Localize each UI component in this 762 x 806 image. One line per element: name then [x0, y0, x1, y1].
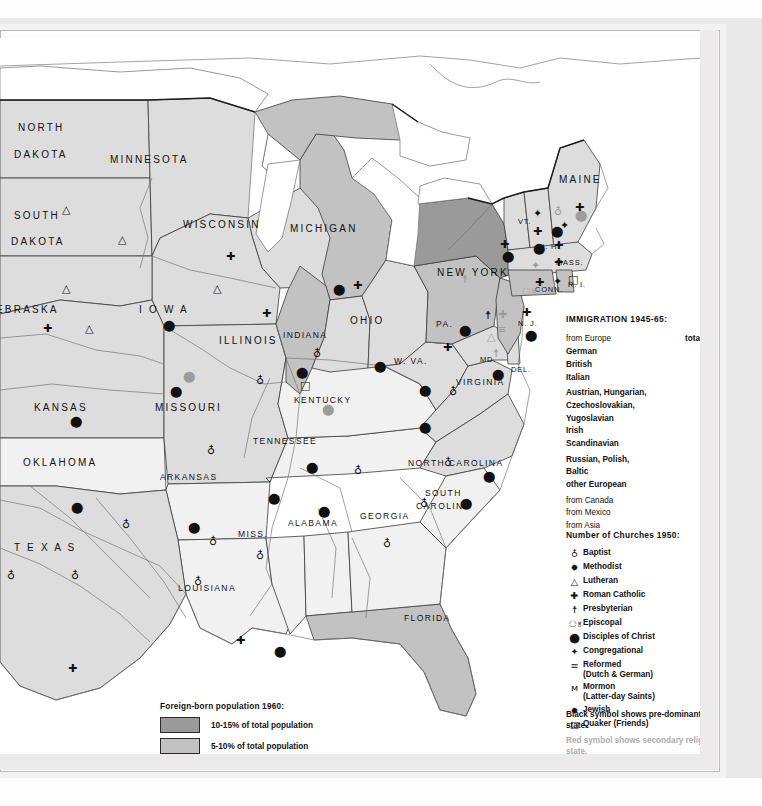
immigration-value: 397,541: [666, 359, 700, 372]
church-symbol-icon: ☨: [566, 603, 583, 617]
church-denomination: Roman Catholic: [583, 589, 700, 603]
religion-symbol-primary: ⬤: [306, 462, 318, 473]
religion-symbol-secondary: ⬤: [183, 371, 195, 382]
religion-symbol-primary: △: [118, 234, 126, 245]
immigration-table: from Europetotal 2,332,676German794,192B…: [566, 333, 700, 533]
symbol-color-note: Black symbol shows pre-dominant religion…: [566, 710, 700, 754]
state-label: T E X A S: [14, 542, 76, 553]
state-label: I O W A: [139, 304, 189, 315]
map-canvas[interactable]: .st{stroke:#3a3a3a;stroke-width:.8;} .hi…: [0, 38, 700, 754]
state-label: INDIANA: [283, 330, 327, 340]
religion-symbol-primary: ⬤: [333, 284, 345, 295]
state-label: TENNESSEE: [253, 436, 317, 446]
religion-symbol-primary: ⬤: [483, 471, 495, 482]
religion-symbol-primary: ⬤: [318, 506, 330, 517]
religion-symbol-primary: ♁: [71, 570, 79, 581]
state-label: DEL.: [511, 365, 531, 374]
religion-symbol-primary: □: [300, 380, 310, 391]
churches-table: ♁Baptist77,000✹Methodist54,000△Lutheran1…: [566, 547, 700, 731]
church-row: ✚Roman Catholic15,533: [566, 589, 700, 603]
immigration-label: from Mexico: [566, 507, 666, 520]
immigration-value: total 2,332,676: [666, 333, 700, 346]
religion-symbol-primary: ⬤: [170, 386, 182, 397]
church-symbol-icon: △: [566, 575, 583, 589]
immigration-row: Baltic54,392: [566, 466, 700, 479]
church-denomination: Baptist: [583, 547, 700, 561]
secondary-religion-note: Red symbol shows secondary religion in s…: [566, 736, 700, 754]
church-denomination: Presbyterian: [583, 603, 700, 617]
immigration-row: German794,192: [566, 346, 700, 359]
state-label: FLORIDA: [404, 613, 451, 623]
religion-symbol-primary: ♁: [383, 538, 391, 549]
state-label: OHIO: [350, 315, 384, 326]
religion-symbol-secondary: ☨: [493, 348, 499, 359]
religion-symbol-primary: △: [62, 283, 70, 294]
immigration-label: Italian: [566, 371, 666, 384]
immigration-label: Czechoslovakian,: [566, 400, 666, 413]
foreign-born-label: 5-10% of total population: [211, 742, 308, 751]
religion-symbol-primary: ♁: [256, 550, 264, 561]
religion-symbol-secondary: ঃ: [521, 286, 537, 297]
religion-symbol-primary: ♁: [122, 519, 130, 530]
immigration-row: British397,541: [566, 359, 700, 372]
immigration-row: from Canada701,059: [566, 492, 700, 507]
religion-symbol-secondary: ✚: [498, 309, 507, 320]
state-label: N. J.: [518, 319, 537, 328]
religion-symbol-secondary: ✦: [531, 260, 540, 271]
church-symbol-icon: ᴍ: [566, 681, 583, 703]
religion-symbol-primary: △: [62, 204, 70, 215]
state-label: ALABAMA: [288, 518, 338, 528]
state-label: SOUTH: [14, 210, 60, 221]
state-label: MICHIGAN: [290, 223, 358, 234]
church-denomination: Mormon(Latter-day Saints): [583, 681, 700, 703]
immigration-label: from Europe: [566, 333, 666, 346]
foreign-born-swatch: [160, 738, 200, 754]
church-denomination-line2: (Dutch & German): [583, 670, 700, 680]
immigration-value: [666, 451, 700, 466]
religion-symbol-primary: ✚: [43, 323, 52, 334]
religion-symbol-primary: ⬤: [296, 367, 308, 378]
immigration-label: British: [566, 359, 666, 372]
foreign-born-legend-title: Foreign-born population 1960:: [160, 702, 420, 711]
religion-symbol-primary: ⬤: [274, 646, 286, 657]
church-row: ঃEpiscopal7,784: [566, 617, 700, 631]
state-label: LOUISIANA: [178, 583, 236, 593]
immigration-value: [666, 400, 700, 413]
religion-symbol-primary: ⬤: [533, 243, 545, 254]
state-label: MINNESOTA: [110, 154, 189, 165]
state-label: MAINE: [559, 174, 602, 185]
immigration-value: 161,370: [666, 412, 700, 425]
religion-symbol-secondary: ≡: [497, 324, 506, 335]
religion-symbol-secondary: ☨: [462, 274, 468, 285]
religion-symbol-primary: ⬤: [70, 416, 82, 427]
immigration-row: Yugoslavian161,370: [566, 412, 700, 425]
religion-symbol-secondary: ⬤: [322, 404, 334, 415]
religion-symbol-primary: ⬤: [492, 369, 504, 380]
state-label: PA.: [436, 319, 453, 329]
religion-symbol-primary: ✚: [533, 226, 542, 237]
predominant-religion-note: Black symbol shows pre-dominant religion…: [566, 710, 700, 732]
state-label: SOUTH: [425, 488, 462, 498]
immigration-legend: IMMIGRATION 1945-65: from Europetotal 2,…: [566, 314, 700, 533]
state-label: MISS.: [238, 529, 268, 539]
religion-symbol-primary: ⬤: [419, 422, 431, 433]
religion-symbol-secondary: ♁: [554, 206, 562, 217]
religion-symbol-primary: △: [213, 283, 221, 294]
religion-symbol-secondary: ⬤: [575, 210, 587, 221]
church-row: ☨Presbyterian13,200: [566, 603, 700, 617]
state-label: WISCONSIN: [183, 219, 261, 230]
religion-symbol-primary: ✦: [560, 220, 569, 231]
religion-symbol-primary: ⬤: [374, 361, 386, 372]
immigration-row: Russian, Polish,: [566, 451, 700, 466]
church-denomination-line1: Reformed: [583, 660, 700, 670]
immigration-row: Czechoslovakian,: [566, 400, 700, 413]
immigration-label: Irish: [566, 425, 666, 438]
foreign-born-swatch: [160, 717, 200, 733]
church-denomination: Disciples of Christ: [583, 631, 700, 645]
state-label: OKLAHOMA: [23, 457, 97, 468]
immigration-value: 405,534: [666, 479, 700, 492]
church-denomination-line1: Mormon: [583, 682, 700, 692]
religion-symbol-primary: ⬤: [459, 325, 471, 336]
church-symbol-icon: ✦: [566, 645, 583, 659]
immigration-row: Italian310,449: [566, 371, 700, 384]
